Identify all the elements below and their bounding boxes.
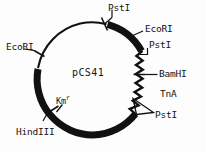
label-km-resistance: Kmr (56, 97, 70, 106)
plasmid-thick-arc-upper-right (108, 24, 142, 51)
label-tn-a: TnA (160, 89, 177, 99)
label-eco-ri-upper-right: EcoRI (145, 24, 173, 34)
label-km-resistance-superscript: r (66, 94, 70, 102)
plasmid-thin-arc (38, 22, 105, 67)
label-pst-i-right: PstI (149, 40, 171, 50)
label-hind-iii: HindIII (16, 127, 55, 137)
label-km-resistance-base: Km (56, 96, 66, 106)
label-bam-hi: BamHI (159, 69, 187, 79)
label-pst-i-top: PstI (108, 3, 130, 13)
label-plasmid-name: pCS41 (72, 68, 104, 78)
plasmid-map-figure: PstI EcoRI PstI BamHI TnA PstI EcoRI Kmr… (0, 0, 206, 153)
label-pst-i-bottom-right: PstI (155, 110, 177, 120)
label-eco-ri-left: EcoRI (6, 42, 34, 52)
